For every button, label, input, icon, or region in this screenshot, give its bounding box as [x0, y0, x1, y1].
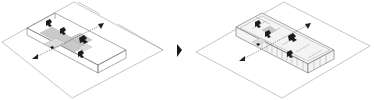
- building-volume-right: [236, 13, 334, 73]
- triangle-right-icon: [177, 44, 182, 57]
- panel-after: [196, 2, 370, 98]
- panel-before: [2, 2, 163, 98]
- diagram-canvas: [0, 0, 374, 100]
